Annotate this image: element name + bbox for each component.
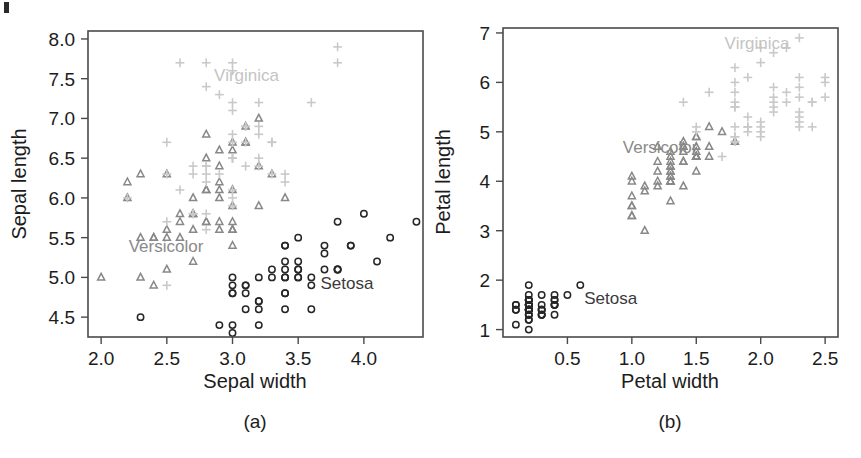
marker-circle: [308, 282, 314, 288]
series-annotation-virginica: Virginica: [214, 66, 279, 85]
marker-triangle: [216, 162, 223, 169]
marker-triangle: [282, 194, 289, 201]
marker-circle: [282, 290, 288, 296]
panel-a-svg: 2.02.53.03.54.0 4.55.05.56.06.57.07.58.0…: [0, 0, 430, 458]
y-tick-label: 2: [479, 270, 490, 291]
marker-circle: [229, 322, 235, 328]
marker-triangle: [190, 194, 197, 201]
marker-triangle: [203, 186, 210, 193]
panel-b-petal: 0.51.01.52.02.5 1234567 VirginicaVersico…: [430, 0, 861, 458]
y-tick-label: 8.0: [49, 29, 75, 50]
marker-circle: [282, 242, 288, 248]
y-tick-label: 7: [479, 23, 490, 44]
panel-b-ylabel: Petal length: [432, 129, 454, 235]
series-setosa: [137, 211, 419, 337]
series-annotation-versicolor: Versicolor: [623, 138, 698, 157]
series-annotation-setosa: Setosa: [584, 289, 637, 308]
panel-b-xlabel: Petal width: [621, 370, 719, 392]
marker-circle: [321, 250, 327, 256]
marker-circle: [242, 290, 248, 296]
y-tick-label: 3: [479, 221, 490, 242]
panel-b-x-ticks: 0.51.01.52.02.5: [554, 337, 838, 369]
marker-triangle: [628, 212, 635, 219]
y-tick-label: 4.5: [49, 307, 75, 328]
marker-triangle: [654, 167, 661, 174]
marker-triangle: [216, 194, 223, 201]
panel-a-caption: (a): [243, 411, 266, 432]
marker-circle: [137, 314, 143, 320]
marker-circle: [269, 274, 275, 280]
x-tick-label: 2.0: [88, 348, 114, 369]
marker-circle: [308, 306, 314, 312]
marker-circle: [295, 274, 301, 280]
x-tick-label: 2.5: [812, 348, 838, 369]
x-tick-label: 3.0: [219, 348, 245, 369]
marker-circle: [577, 282, 583, 288]
marker-circle: [551, 312, 557, 318]
marker-circle: [334, 266, 340, 272]
marker-triangle: [628, 202, 635, 209]
panel-a-x-ticks: 2.02.53.03.54.0: [88, 337, 377, 369]
marker-triangle: [163, 265, 170, 272]
marker-triangle: [137, 170, 144, 177]
x-tick-label: 4.0: [351, 348, 377, 369]
marker-circle: [282, 274, 288, 280]
y-tick-label: 1: [479, 320, 490, 341]
marker-triangle: [176, 218, 183, 225]
series-setosa: [513, 282, 584, 333]
y-tick-label: 6.5: [49, 148, 75, 169]
panel-b-y-ticks: 1234567: [479, 23, 503, 341]
marker-triangle: [255, 114, 262, 121]
marker-circle: [256, 322, 262, 328]
x-tick-label: 3.5: [285, 348, 311, 369]
marker-triangle: [706, 153, 713, 160]
marker-triangle: [216, 178, 223, 185]
marker-circle: [387, 234, 393, 240]
panel-b-frame: [503, 28, 838, 337]
marker-circle: [256, 298, 262, 304]
marker-triangle: [693, 167, 700, 174]
marker-triangle: [229, 218, 236, 225]
marker-circle: [229, 290, 235, 296]
marker-triangle: [203, 130, 210, 137]
marker-circle: [242, 306, 248, 312]
series-annotation-versicolor: Versicolor: [129, 237, 204, 256]
x-tick-label: 2.0: [747, 348, 773, 369]
marker-triangle: [641, 227, 648, 234]
marker-circle: [526, 282, 532, 288]
marker-circle: [282, 306, 288, 312]
marker-circle: [295, 258, 301, 264]
marker-triangle: [98, 273, 105, 280]
y-tick-label: 5.0: [49, 267, 75, 288]
marker-triangle: [229, 242, 236, 249]
marker-triangle: [667, 197, 674, 204]
y-tick-label: 6: [479, 72, 490, 93]
marker-circle: [269, 266, 275, 272]
marker-circle: [282, 258, 288, 264]
marker-circle: [229, 282, 235, 288]
x-tick-label: 1.5: [683, 348, 709, 369]
marker-triangle: [190, 226, 197, 233]
marker-triangle: [176, 210, 183, 217]
marker-triangle: [706, 143, 713, 150]
marker-triangle: [163, 226, 170, 233]
x-tick-label: 1.0: [619, 348, 645, 369]
marker-triangle: [203, 218, 210, 225]
marker-circle: [513, 321, 519, 327]
marker-triangle: [190, 257, 197, 264]
marker-circle: [321, 242, 327, 248]
marker-circle: [413, 219, 419, 225]
panel-b-series-labels: VirginicaVersicolorSetosa: [584, 34, 790, 308]
marker-circle: [348, 242, 354, 248]
series-annotation-setosa: Setosa: [321, 274, 374, 293]
marker-circle: [256, 306, 262, 312]
panel-a-xlabel: Sepal width: [203, 370, 306, 392]
marker-circle: [282, 266, 288, 272]
y-tick-label: 5.5: [49, 228, 75, 249]
marker-circle: [374, 258, 380, 264]
marker-triangle: [255, 202, 262, 209]
marker-circle: [308, 274, 314, 280]
marker-triangle: [229, 226, 236, 233]
x-tick-label: 0.5: [554, 348, 580, 369]
y-tick-label: 6.0: [49, 188, 75, 209]
